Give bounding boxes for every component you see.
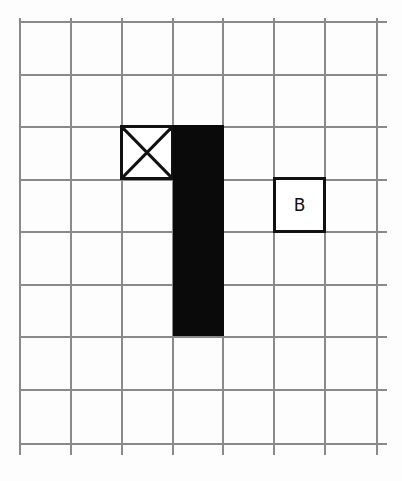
x-marked-cell <box>120 125 174 180</box>
grid-line-h <box>19 389 387 391</box>
wall-block <box>173 125 224 336</box>
grid-line-v <box>121 18 123 455</box>
grid-line-h <box>19 74 387 76</box>
grid-line-v <box>19 18 21 455</box>
crossed-box-icon <box>123 128 171 177</box>
grid-line-v <box>273 18 275 455</box>
b-cell: B <box>273 177 326 233</box>
grid-line-v <box>324 18 326 455</box>
grid-line-h <box>19 443 387 445</box>
b-label: B <box>294 195 306 215</box>
grid-line-h <box>19 21 387 23</box>
grid-line-v <box>376 18 378 455</box>
grid-line-v <box>70 18 72 455</box>
grid-line-h <box>19 336 387 338</box>
